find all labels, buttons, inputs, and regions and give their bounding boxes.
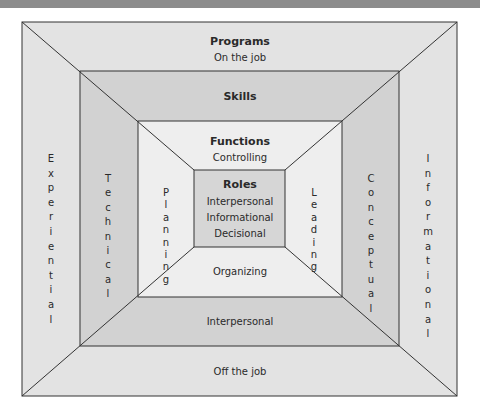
svg-text:n: n <box>425 299 431 310</box>
svg-text:x: x <box>48 168 54 179</box>
roles-item: Interpersonal <box>207 196 274 207</box>
svg-text:e: e <box>48 197 54 208</box>
svg-text:e: e <box>48 241 54 252</box>
skills-left-label: Technical <box>104 173 112 299</box>
svg-text:p: p <box>48 182 54 193</box>
svg-text:i: i <box>50 284 53 295</box>
skills-title: Skills <box>223 90 257 103</box>
svg-text:o: o <box>425 284 431 295</box>
functions-bottom-label: Organizing <box>213 266 267 277</box>
skills-bottom-label: Interpersonal <box>207 316 274 327</box>
programs-top-label: On the job <box>214 52 266 63</box>
svg-text:n: n <box>48 255 54 266</box>
svg-text:c: c <box>368 216 374 227</box>
svg-text:o: o <box>368 187 374 198</box>
svg-text:a: a <box>105 274 111 285</box>
svg-text:a: a <box>425 241 431 252</box>
svg-text:g: g <box>311 261 317 272</box>
svg-text:e: e <box>311 199 317 210</box>
svg-text:a: a <box>48 299 54 310</box>
svg-text:i: i <box>107 245 110 256</box>
svg-text:g: g <box>163 274 169 285</box>
svg-text:n: n <box>368 202 374 213</box>
svg-text:c: c <box>105 202 111 213</box>
svg-text:o: o <box>425 197 431 208</box>
svg-text:a: a <box>368 288 374 299</box>
svg-text:i: i <box>50 226 53 237</box>
svg-text:i: i <box>427 270 430 281</box>
functions-right-label: Leading <box>311 187 317 272</box>
roles-title: Roles <box>223 178 257 191</box>
svg-text:i: i <box>165 249 168 260</box>
svg-text:t: t <box>49 270 53 281</box>
svg-text:i: i <box>313 237 316 248</box>
svg-text:f: f <box>426 182 430 193</box>
svg-text:a: a <box>425 314 431 325</box>
svg-text:n: n <box>105 231 111 242</box>
svg-text:n: n <box>163 237 169 248</box>
functions-title: Functions <box>210 135 271 148</box>
programs-title: Programs <box>210 35 270 48</box>
svg-text:n: n <box>163 224 169 235</box>
svg-text:I: I <box>427 153 430 164</box>
svg-text:n: n <box>311 249 317 260</box>
svg-text:t: t <box>426 255 430 266</box>
svg-text:n: n <box>163 261 169 272</box>
roles-item: Informational <box>207 212 274 223</box>
svg-text:d: d <box>311 224 317 235</box>
svg-text:a: a <box>311 212 317 223</box>
svg-text:h: h <box>105 216 111 227</box>
svg-text:l: l <box>427 328 430 339</box>
svg-text:n: n <box>425 168 431 179</box>
nested-squares-diagram: Programs On the job Off the job Experien… <box>0 0 480 415</box>
svg-text:T: T <box>104 173 112 184</box>
svg-text:u: u <box>368 274 374 285</box>
functions-top-label: Controlling <box>213 152 267 163</box>
svg-text:l: l <box>165 199 168 210</box>
svg-text:E: E <box>48 153 54 164</box>
svg-text:m: m <box>423 226 433 237</box>
svg-text:t: t <box>369 259 373 270</box>
svg-text:a: a <box>163 212 169 223</box>
svg-text:l: l <box>107 288 110 299</box>
svg-text:l: l <box>370 303 373 314</box>
svg-text:e: e <box>105 187 111 198</box>
svg-text:e: e <box>368 231 374 242</box>
svg-text:C: C <box>368 173 375 184</box>
svg-text:L: L <box>311 187 317 198</box>
programs-bottom-label: Off the job <box>214 366 267 377</box>
svg-text:p: p <box>368 245 374 256</box>
svg-text:l: l <box>50 314 53 325</box>
roles-item: Decisional <box>214 228 265 239</box>
svg-text:P: P <box>163 187 169 198</box>
svg-text:c: c <box>105 259 111 270</box>
